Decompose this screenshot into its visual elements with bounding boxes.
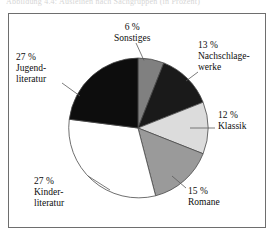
callout-jugendliteratur-percent: 27 % [16, 52, 46, 63]
callout-sonstiges: 6 % Sonstiges [114, 22, 150, 44]
callout-jugendliteratur-label-line2: literatur [16, 74, 46, 85]
leader-line-nachschlagewerke [186, 72, 198, 81]
callout-nachschlagewerke-label-line2: werke [198, 62, 250, 73]
callout-klassik: 12 % Klassik [218, 110, 247, 132]
scanned-figure: Abbildung 4.4: Ausleihen nach Sachgruppe… [0, 0, 277, 240]
leader-line-jugendliteratur [62, 83, 80, 96]
callout-nachschlagewerke: 13 % Nachschlage- werke [198, 40, 250, 73]
pie-slice-jugendliteratur[interactable] [69, 58, 138, 128]
callout-sonstiges-label: Sonstiges [114, 33, 150, 44]
callout-romane-label: Romane [188, 197, 220, 208]
callout-kinderliteratur-percent: 27 % [34, 176, 64, 187]
callout-kinderliteratur-label-line2: literatur [34, 198, 64, 209]
callout-nachschlagewerke-label-line1: Nachschlage- [198, 51, 250, 62]
callout-jugendliteratur: 27 % Jugend- literatur [16, 52, 46, 85]
callout-kinderliteratur: 27 % Kinder- literatur [34, 176, 64, 209]
callout-jugendliteratur-label-line1: Jugend- [16, 63, 46, 74]
callout-nachschlagewerke-percent: 13 % [198, 40, 250, 51]
callout-kinderliteratur-label-line1: Kinder- [34, 187, 64, 198]
callout-klassik-label: Klassik [218, 121, 247, 132]
callout-sonstiges-percent: 6 % [114, 22, 150, 33]
callout-klassik-percent: 12 % [218, 110, 247, 121]
callout-romane: 15 % Romane [188, 186, 220, 208]
callout-romane-percent: 15 % [188, 186, 220, 197]
